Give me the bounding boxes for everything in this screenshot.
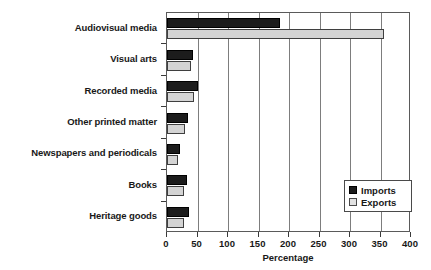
gridline [228, 13, 229, 231]
legend-item-exports: Exports [349, 196, 407, 208]
gridline [320, 13, 321, 231]
legend-swatch-imports-icon [349, 186, 357, 194]
x-axis-tick [410, 232, 411, 237]
category-tick [161, 169, 166, 170]
x-axis-tick [258, 232, 259, 237]
legend-item-imports: Imports [349, 184, 407, 196]
x-axis-tick [319, 232, 320, 237]
bar-exports [167, 218, 184, 228]
x-axis-tick [349, 232, 350, 237]
x-axis-tick [197, 232, 198, 237]
x-axis-tick-label: 400 [390, 238, 430, 249]
bar-imports [167, 50, 193, 60]
bar-imports [167, 113, 188, 123]
category-label: Heritage goods [0, 211, 157, 221]
bar-exports [167, 124, 185, 134]
category-tick [161, 138, 166, 139]
bar-exports [167, 61, 191, 71]
category-label: Audiovisual media [0, 23, 157, 33]
category-tick [161, 106, 166, 107]
x-axis-tick [227, 232, 228, 237]
chart-legend: Imports Exports [344, 180, 412, 212]
x-axis-tick [288, 232, 289, 237]
x-axis-tick-labels: 050100150200250300350400 [166, 238, 410, 250]
bar-exports [167, 29, 384, 39]
gridline [289, 13, 290, 231]
bar-exports [167, 186, 184, 196]
category-label: Recorded media [0, 86, 157, 96]
bar-exports [167, 92, 194, 102]
bar-exports [167, 155, 178, 165]
bar-imports [167, 207, 189, 217]
category-tick-marks [161, 12, 166, 232]
category-label: Visual arts [0, 54, 157, 64]
bar-chart-figure: Audiovisual mediaVisual artsRecorded med… [0, 0, 431, 270]
category-axis-labels: Audiovisual mediaVisual artsRecorded med… [0, 12, 162, 232]
gridline [259, 13, 260, 231]
category-label: Newspapers and periodicals [0, 148, 157, 158]
bar-imports [167, 81, 198, 91]
x-axis-title: Percentage [166, 252, 410, 263]
category-tick [161, 43, 166, 44]
legend-label-exports: Exports [361, 197, 396, 208]
category-label: Books [0, 180, 157, 190]
x-axis-tick [380, 232, 381, 237]
category-tick [161, 201, 166, 202]
gridline [198, 13, 199, 231]
category-label: Other printed matter [0, 117, 157, 127]
bar-imports [167, 175, 187, 185]
x-axis-tick [166, 232, 167, 237]
bar-imports [167, 18, 280, 28]
legend-label-imports: Imports [361, 185, 396, 196]
bar-imports [167, 144, 180, 154]
legend-swatch-exports-icon [349, 198, 357, 206]
category-tick [161, 75, 166, 76]
